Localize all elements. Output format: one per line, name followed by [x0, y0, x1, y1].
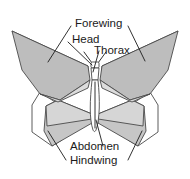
- label-abdomen: Abdomen: [70, 140, 119, 152]
- butterfly-anatomy-diagram: Forewing Head Thorax Abdomen Hindwing: [0, 0, 190, 179]
- butterfly-diagram-canvas: Forewing Head Thorax Abdomen Hindwing: [0, 0, 190, 179]
- label-thorax: Thorax: [94, 44, 130, 56]
- label-hindwing: Hindwing: [70, 154, 117, 166]
- thorax: [91, 68, 99, 80]
- label-forewing: Forewing: [75, 17, 122, 29]
